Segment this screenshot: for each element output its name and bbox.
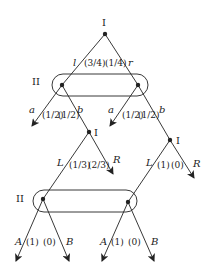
- edge-B-right: [128, 202, 154, 261]
- label-B-left: B: [65, 236, 73, 247]
- root-node: [103, 32, 107, 36]
- label-a-right: a: [108, 104, 114, 115]
- prob-R-midleft: (2/3): [88, 160, 110, 170]
- root-player-label: I: [102, 17, 106, 28]
- node-ii-left: [60, 83, 64, 87]
- prob-b-right: (1/2): [138, 110, 160, 120]
- label-L-midleft: L: [56, 157, 64, 168]
- node-i-midleft: [87, 130, 91, 134]
- prob-A-left: (1): [26, 237, 39, 247]
- label-a-left: a: [29, 104, 35, 115]
- label-B-right: B: [150, 236, 158, 247]
- prob-L-midright: (1): [157, 160, 170, 170]
- edge-L-midright: [128, 140, 170, 202]
- label-r: r: [128, 57, 134, 68]
- edge-A-right: [102, 202, 128, 261]
- prob-root-r: (1/4): [105, 58, 127, 68]
- top-ii-label: II: [32, 76, 40, 87]
- label-L-midright: L: [145, 157, 153, 168]
- node-ii-bottom-left: [41, 197, 45, 201]
- label-b-left: b: [77, 104, 83, 115]
- node-ii-right: [136, 83, 140, 87]
- label-A-right: A: [99, 236, 107, 247]
- prob-R-midright: (0): [171, 160, 184, 170]
- info-set-bottom: [33, 190, 137, 212]
- node-i-midright: [168, 138, 172, 142]
- mid-right-player-label: I: [176, 135, 180, 146]
- label-l: l: [73, 57, 76, 68]
- label-R-midright: R: [192, 158, 201, 169]
- game-tree: I l r (3/4) (1/4) II a (1/2) (1/2) b a (…: [0, 0, 211, 276]
- prob-B-right: (0): [128, 237, 141, 247]
- prob-A-right: (1): [111, 237, 124, 247]
- bottom-ii-label: II: [16, 193, 24, 204]
- edge-B-left: [43, 199, 69, 261]
- prob-root-l: (3/4): [84, 58, 106, 68]
- edge-b-left: [62, 85, 89, 132]
- node-ii-bottom-right: [126, 200, 130, 204]
- label-R-midleft: R: [112, 154, 121, 165]
- prob-B-left: (0): [43, 237, 56, 247]
- edge-A-left: [16, 199, 43, 261]
- mid-left-player-label: I: [94, 127, 98, 138]
- label-b-right: b: [159, 104, 165, 115]
- label-A-left: A: [14, 236, 22, 247]
- edge-R-midright: [170, 140, 194, 178]
